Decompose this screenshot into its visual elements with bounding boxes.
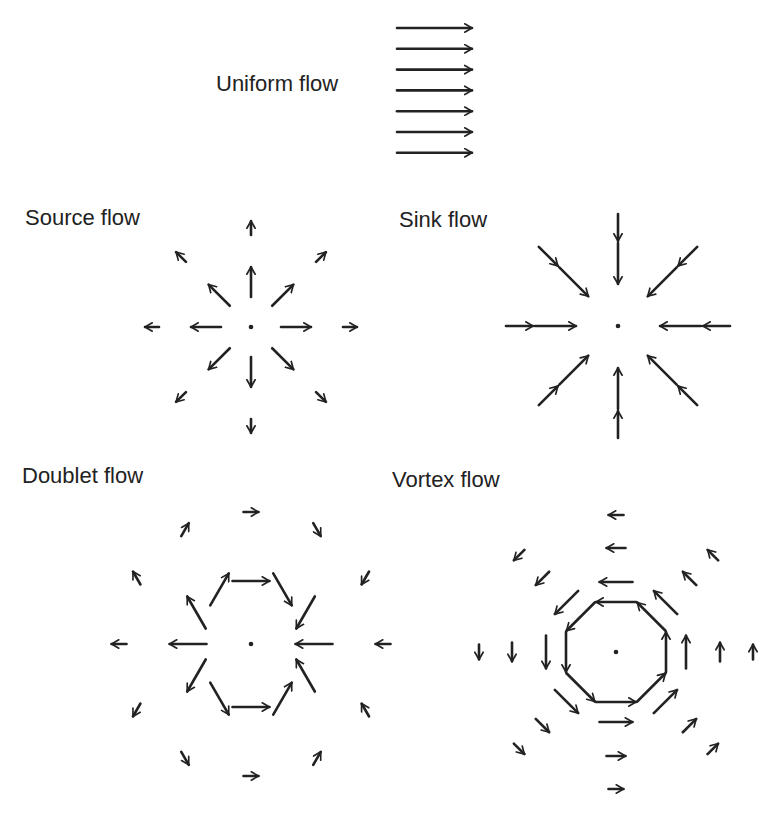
vortex-flow-arrow bbox=[637, 603, 665, 631]
doublet-flow-arrow bbox=[133, 572, 141, 585]
sink-flow-arrow bbox=[678, 386, 697, 405]
vortex-center-point bbox=[614, 650, 619, 655]
sink-flow-arrow bbox=[648, 267, 677, 296]
source-center-point bbox=[249, 325, 254, 330]
doublet-flow-arrow bbox=[210, 683, 229, 715]
vortex-flow-arrow bbox=[567, 673, 595, 701]
source-flow-arrow bbox=[176, 392, 186, 402]
vortex-flow-arrow bbox=[536, 719, 549, 732]
doublet-flow-arrow bbox=[296, 659, 315, 691]
sink-flow-arrows bbox=[506, 214, 730, 438]
vortex-flow-arrow bbox=[567, 603, 595, 631]
sink-center-point bbox=[616, 324, 621, 329]
source-flow-arrow bbox=[272, 285, 293, 306]
doublet-center-point bbox=[249, 642, 254, 647]
vortex-flow-arrow bbox=[514, 744, 525, 755]
doublet-flow-arrow bbox=[273, 683, 292, 715]
vortex-flow-arrow bbox=[514, 550, 525, 561]
vortex-flow-arrow bbox=[637, 673, 665, 701]
doublet-flow-arrow bbox=[313, 752, 321, 765]
doublet-flow-arrow bbox=[187, 659, 206, 691]
source-flow-arrow bbox=[272, 348, 293, 369]
source-flow-arrow bbox=[316, 392, 326, 402]
vortex-flow-arrow bbox=[654, 591, 677, 614]
vortex-flow-arrow bbox=[536, 572, 549, 585]
doublet-flow-arrows bbox=[112, 512, 391, 776]
doublet-flow-arrow bbox=[273, 573, 292, 605]
uniform-flow-arrows bbox=[397, 28, 472, 153]
source-flow-arrow bbox=[316, 252, 326, 262]
doublet-flow-arrow bbox=[181, 752, 189, 765]
vortex-flow-arrows bbox=[479, 515, 753, 789]
vortex-flow-arrow bbox=[555, 591, 578, 614]
flow-diagram-canvas bbox=[0, 0, 779, 834]
vortex-flow-arrow bbox=[555, 690, 578, 713]
doublet-flow-arrow bbox=[187, 596, 206, 628]
doublet-flow-arrow bbox=[313, 523, 321, 536]
doublet-flow-arrow bbox=[362, 572, 370, 585]
vortex-flow-arrow bbox=[654, 690, 677, 713]
sink-flow-arrow bbox=[539, 386, 558, 405]
doublet-flow-arrow bbox=[362, 704, 370, 717]
sink-flow-arrow bbox=[559, 356, 588, 385]
sink-flow-arrow bbox=[648, 356, 677, 385]
vortex-flow-arrow bbox=[708, 744, 719, 755]
vortex-flow-arrow bbox=[708, 550, 719, 561]
source-flow-arrow bbox=[209, 348, 230, 369]
sink-flow-arrow bbox=[539, 247, 558, 266]
doublet-flow-arrow bbox=[133, 704, 141, 717]
source-flow-arrow bbox=[209, 285, 230, 306]
sink-flow-arrow bbox=[678, 247, 697, 266]
doublet-flow-arrow bbox=[296, 596, 315, 628]
sink-flow-arrow bbox=[559, 267, 588, 296]
doublet-flow-arrow bbox=[181, 523, 189, 536]
vortex-flow-arrow bbox=[683, 719, 696, 732]
doublet-flow-arrow bbox=[210, 573, 229, 605]
vortex-flow-arrow bbox=[683, 572, 696, 585]
source-flow-arrows bbox=[145, 221, 357, 433]
source-flow-arrow bbox=[176, 252, 186, 262]
